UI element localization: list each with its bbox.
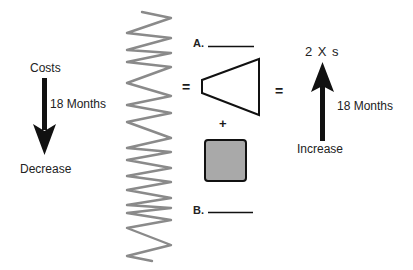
decrease-label: Decrease — [20, 163, 71, 175]
label-b: B. — [193, 204, 204, 216]
gray-square-shape — [205, 140, 246, 181]
equals-sign-1: = — [182, 80, 190, 94]
trapezoid-shape — [202, 59, 259, 115]
left-duration-label: 18 Months — [50, 98, 106, 110]
plus-sign: + — [219, 117, 227, 130]
label-a: A. — [193, 37, 204, 49]
increase-label: Increase — [297, 143, 343, 155]
two-x-label: 2 X s — [305, 45, 340, 58]
equals-sign-2: = — [275, 84, 283, 98]
arrow-up-icon — [311, 62, 334, 141]
arrow-down-icon — [33, 78, 56, 155]
diagram-canvas — [0, 0, 413, 270]
right-duration-label: 18 Months — [337, 100, 393, 112]
costs-label: Costs — [30, 62, 61, 74]
spring-icon — [127, 12, 171, 261]
